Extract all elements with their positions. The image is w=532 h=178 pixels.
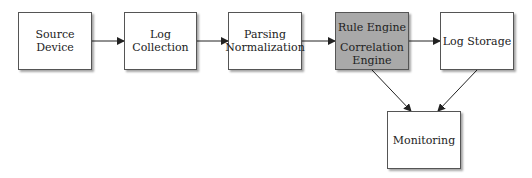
node-label-top: Rule Engine <box>338 21 406 34</box>
node-source-device: Source Device <box>18 12 92 70</box>
rule-engine-section: Rule Engine <box>336 13 408 39</box>
node-parsing-normalization: Parsing Normalization <box>228 12 302 70</box>
node-label: Log Storage <box>443 35 511 48</box>
node-label: Log Collection <box>125 28 196 54</box>
node-monitoring: Monitoring <box>387 111 461 169</box>
correlation-engine-section: Correlation Engine <box>332 39 412 69</box>
node-label: Source Device <box>19 28 91 54</box>
arrow-engine-to-monitoring <box>372 70 411 111</box>
node-label-line2: Normalization <box>225 41 305 54</box>
node-rule-correlation-engine: Rule Engine Correlation Engine <box>335 12 409 70</box>
node-label: Monitoring <box>393 134 455 147</box>
node-log-storage: Log Storage <box>440 12 514 70</box>
node-log-collection: Log Collection <box>124 12 197 70</box>
node-label-bottom: Correlation Engine <box>336 41 408 67</box>
arrow-storage-to-monitoring <box>438 70 477 111</box>
node-label-line1: Parsing <box>244 28 286 41</box>
